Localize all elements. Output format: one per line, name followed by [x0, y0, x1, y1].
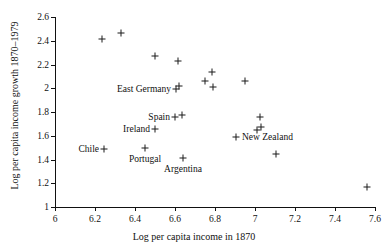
- data-point-marker: [152, 52, 159, 59]
- y-tick-mark: [51, 112, 55, 113]
- data-point-marker: [273, 150, 280, 157]
- data-point-label: New Zealand: [242, 132, 293, 142]
- x-tick-mark: [135, 207, 136, 211]
- data-point-marker: [152, 125, 159, 132]
- data-point-marker: [142, 144, 149, 151]
- plot-area: 11.21.41.61.822.22.42.6 66.26.46.66.877.…: [55, 17, 375, 208]
- y-tick-label: 1: [19, 202, 49, 212]
- x-tick-label: 6.4: [129, 214, 141, 224]
- y-tick-label: 2.2: [19, 60, 49, 70]
- y-tick-mark: [51, 17, 55, 18]
- data-point-marker: [99, 35, 106, 42]
- y-tick-label: 1.4: [19, 155, 49, 165]
- y-tick-mark: [51, 88, 55, 89]
- data-point-marker: [364, 184, 371, 191]
- x-tick-mark: [175, 207, 176, 211]
- data-point-marker: [180, 154, 187, 161]
- y-axis-title: Log per capita income growth 1870–1979: [9, 16, 20, 196]
- x-tick-label: 6: [53, 214, 58, 224]
- y-tick-mark: [51, 136, 55, 137]
- y-tick-mark: [51, 65, 55, 66]
- x-tick-mark: [215, 207, 216, 211]
- data-point-marker: [257, 114, 264, 121]
- data-point-marker: [118, 30, 125, 37]
- data-point-label: Ireland: [123, 124, 150, 134]
- x-tick-mark: [295, 207, 296, 211]
- y-tick-label: 2: [19, 83, 49, 93]
- data-point-marker: [179, 111, 186, 118]
- y-axis-line: [55, 17, 56, 208]
- x-tick-label: 6.2: [89, 214, 101, 224]
- y-tick-mark: [51, 41, 55, 42]
- y-tick-label: 2.4: [19, 36, 49, 46]
- data-point-marker: [101, 145, 108, 152]
- x-tick-label: 7.4: [329, 214, 341, 224]
- data-point-label: Portugal: [129, 154, 161, 164]
- data-point-marker: [173, 85, 180, 92]
- y-tick-label: 1.2: [19, 178, 49, 188]
- scatter-chart-figure: 11.21.41.61.822.22.42.6 66.26.46.66.877.…: [0, 0, 388, 252]
- data-point-marker: [242, 77, 249, 84]
- y-tick-mark: [51, 183, 55, 184]
- data-point-marker: [202, 78, 209, 85]
- data-point-marker: [172, 114, 179, 121]
- x-tick-label: 7: [253, 214, 258, 224]
- x-tick-label: 7.6: [369, 214, 381, 224]
- data-point-marker: [175, 57, 182, 64]
- data-point-marker: [209, 68, 216, 75]
- data-point-marker: [210, 84, 217, 91]
- x-tick-mark: [55, 207, 56, 211]
- x-tick-label: 6.6: [169, 214, 181, 224]
- data-point-marker: [233, 133, 240, 140]
- y-tick-label: 1.6: [19, 131, 49, 141]
- data-point-label: Spain: [148, 112, 170, 122]
- x-tick-mark: [375, 207, 376, 211]
- data-point-label: Chile: [78, 144, 99, 154]
- y-tick-label: 1.8: [19, 107, 49, 117]
- x-axis-title: Log per capita income in 1870: [0, 231, 388, 242]
- x-tick-mark: [95, 207, 96, 211]
- data-point-marker: [258, 123, 265, 130]
- x-tick-mark: [255, 207, 256, 211]
- x-tick-label: 7.2: [289, 214, 301, 224]
- data-point-label: Argentina: [164, 164, 202, 174]
- y-tick-label: 2.6: [19, 12, 49, 22]
- x-tick-mark: [335, 207, 336, 211]
- data-point-label: East Germany: [117, 84, 171, 94]
- x-tick-label: 6.8: [209, 214, 221, 224]
- y-tick-mark: [51, 160, 55, 161]
